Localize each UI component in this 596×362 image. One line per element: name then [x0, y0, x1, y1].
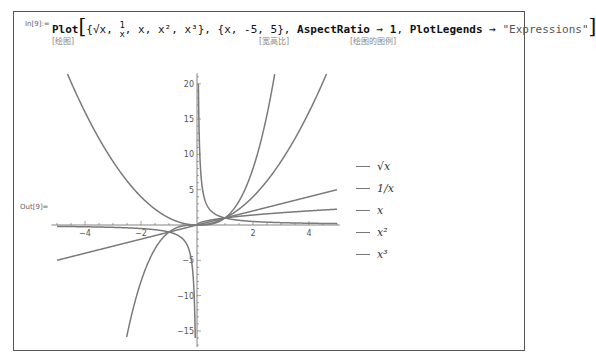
legend-swatch [356, 166, 370, 167]
plot-legend: √x 1/x x x² x³ [356, 155, 394, 265]
legend-swatch [356, 188, 370, 189]
svg-text:10: 10 [184, 150, 194, 159]
legend-swatch [356, 254, 370, 255]
legend-item: x³ [356, 243, 394, 265]
legend-item: x [356, 199, 394, 221]
svg-text:4: 4 [306, 229, 311, 238]
legend-item: √x [356, 155, 394, 177]
legend-swatch [356, 210, 370, 211]
svg-text:15: 15 [184, 115, 194, 124]
svg-text:20: 20 [184, 80, 194, 89]
svg-text:−4: −4 [79, 229, 91, 238]
svg-text:−15: −15 [177, 327, 194, 336]
svg-text:−2: −2 [135, 229, 147, 238]
svg-text:5: 5 [189, 186, 194, 195]
svg-text:−10: −10 [177, 292, 194, 301]
legend-item: 1/x [356, 177, 394, 199]
legend-swatch [356, 232, 370, 233]
legend-item: x² [356, 221, 394, 243]
svg-text:2: 2 [250, 229, 255, 238]
